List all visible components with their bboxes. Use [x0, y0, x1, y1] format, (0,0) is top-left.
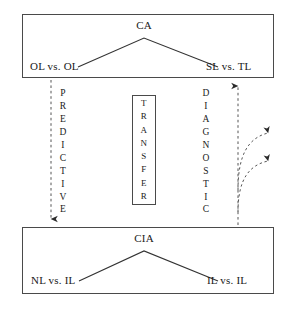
diagnostic-letter: C — [203, 205, 210, 215]
transfer-letter: N — [141, 139, 148, 148]
transfer-letter: R — [141, 112, 147, 121]
predictive-letter: E — [60, 115, 66, 125]
predictive-letter: R — [60, 102, 67, 112]
predictive-letter: P — [60, 89, 66, 99]
diagnostic-letter: A — [202, 115, 209, 125]
diagnostic-letter: N — [202, 141, 209, 151]
predictive-letter: T — [60, 167, 66, 177]
predictive-letter: I — [61, 141, 64, 151]
predictive-letter: C — [60, 154, 67, 164]
cia-apex-label: CIA — [134, 233, 154, 244]
cia-left-leaf-label: NL vs. IL — [31, 275, 75, 286]
transfer-letter: T — [141, 99, 147, 108]
predictive-axis-label: P R E D I C T I V E — [56, 89, 70, 215]
diagnostic-letter: O — [202, 154, 209, 164]
ca-apex-label: CA — [136, 20, 152, 31]
predictive-letter: V — [59, 193, 66, 203]
predictive-letter: I — [61, 180, 64, 190]
cia-right-leaf-label: IL vs. IL — [207, 275, 247, 286]
transfer-label: T R A N S F E R — [132, 99, 156, 201]
diagnostic-letter: S — [203, 167, 209, 177]
diagnostic-letter: I — [204, 193, 207, 203]
branch-arrow-lower — [238, 161, 268, 212]
transfer-letter: F — [141, 165, 146, 174]
predictive-letter: E — [60, 205, 66, 215]
diagnostic-letter: I — [204, 102, 207, 112]
transfer-letter: R — [141, 192, 147, 201]
transfer-letter: S — [141, 152, 146, 161]
ca-right-leaf-label: SL vs. TL — [206, 61, 252, 72]
ca-left-leaf-label: OL vs. OL — [30, 61, 79, 72]
predictive-letter: D — [59, 128, 66, 138]
diagnostic-letter: D — [202, 89, 209, 99]
diagnostic-letter: G — [202, 128, 209, 138]
diagnostic-axis-label: D I A G N O S T I C — [199, 89, 213, 215]
transfer-letter: A — [141, 126, 148, 135]
transfer-letter: E — [141, 179, 147, 188]
diagram-canvas: CA OL vs. OL SL vs. TL CIA NL vs. IL IL … — [0, 0, 289, 309]
diagnostic-letter: T — [203, 180, 209, 190]
